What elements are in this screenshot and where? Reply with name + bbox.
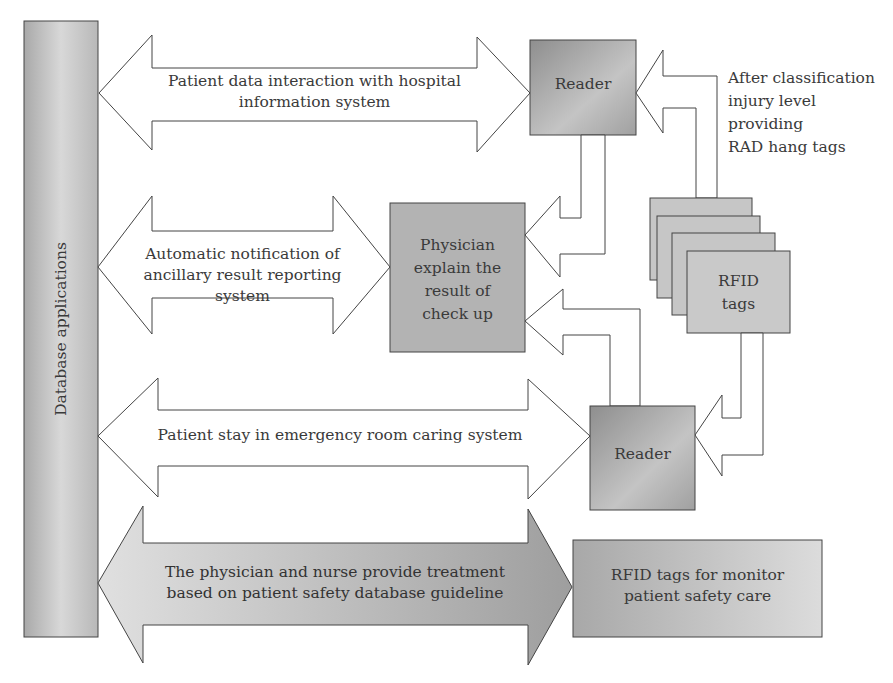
database-column-label: Database applications (52, 242, 70, 416)
reader-bottom-label: Reader (590, 444, 695, 465)
reader-top-label: Reader (530, 74, 636, 95)
arrow-rfid-to-reader-top (636, 50, 717, 198)
rfid-tags-label: RFID tags (687, 270, 790, 316)
arrow-top-label: Patient data interaction with hospital i… (152, 71, 477, 113)
arrow-bottom-label: The physician and nurse provide treatmen… (130, 562, 540, 604)
arrow-reader-top-to-physician (525, 135, 605, 277)
arrow-middle-label: Automatic notification of ancillary resu… (120, 244, 365, 307)
rfid-monitor-label: RFID tags for monitor patient safety car… (573, 565, 822, 607)
arrow-reader-bottom-to-physician (525, 289, 640, 406)
database-column-label-wrap: Database applications (24, 21, 98, 637)
classification-annotation: After classification injury level provid… (728, 67, 893, 159)
arrow-lower-label: Patient stay in emergency room caring sy… (130, 425, 550, 446)
physician-label: Physician explain the result of check up (390, 234, 525, 326)
arrow-rfid-to-reader-bottom (695, 333, 763, 476)
